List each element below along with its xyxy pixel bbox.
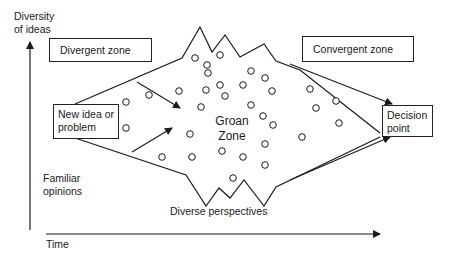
y-axis-label: Diversity of ideas: [14, 10, 48, 36]
idea-circle: [187, 131, 194, 138]
idea-circle: [262, 75, 269, 82]
idea-circle: [240, 82, 247, 89]
arrow-into-groan-upper: [137, 82, 180, 108]
idea-circle: [313, 105, 320, 112]
divergent-zone-box: Divergent zone: [49, 38, 152, 62]
idea-circle: [262, 162, 269, 169]
idea-circle: [146, 92, 153, 99]
idea-circle: [248, 68, 255, 75]
idea-circle: [123, 99, 130, 106]
idea-circle: [333, 98, 340, 105]
new-idea-box: New idea or problem: [53, 104, 119, 139]
diverse-perspectives-label: Diverse perspectives: [170, 205, 267, 218]
arrow-to-decision-upper: [290, 64, 392, 104]
idea-circle: [205, 70, 212, 77]
idea-circle: [123, 125, 130, 132]
idea-circle: [299, 134, 306, 141]
arrow-into-groan-lower: [132, 128, 172, 152]
idea-circle: [270, 122, 277, 129]
idea-circle: [307, 86, 314, 93]
arrow-to-decision-lower: [290, 137, 390, 180]
decision-point-box: Decision point: [382, 105, 433, 137]
familiar-opinions-label: Familiar opinions: [43, 172, 82, 198]
idea-circle: [336, 120, 343, 127]
idea-circle: [189, 154, 196, 161]
idea-circle: [219, 148, 226, 155]
idea-circle: [230, 175, 237, 182]
groan-zone-label: Groan Zone: [212, 114, 252, 144]
idea-circle: [217, 52, 224, 59]
idea-circle: [262, 141, 269, 148]
idea-circle: [192, 55, 199, 62]
idea-circle: [240, 154, 247, 161]
idea-circle: [222, 93, 229, 100]
idea-circle: [159, 154, 166, 161]
idea-circle: [198, 104, 205, 111]
outline-bottom: [75, 137, 380, 206]
idea-circle: [269, 88, 276, 95]
convergent-zone-box: Convergent zone: [302, 36, 414, 62]
idea-circle: [203, 87, 210, 94]
idea-circle: [217, 82, 224, 89]
idea-circle: [260, 113, 267, 120]
time-axis-label: Time: [46, 238, 69, 251]
idea-circle: [248, 102, 255, 109]
idea-circle: [204, 62, 211, 69]
idea-circle: [176, 88, 183, 95]
